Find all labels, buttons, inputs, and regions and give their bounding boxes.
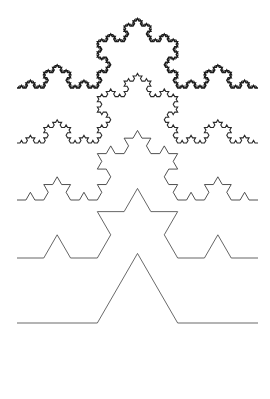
figure-background [0,0,270,399]
koch-curve-figure [0,0,270,399]
koch-iterations-page [0,0,270,399]
